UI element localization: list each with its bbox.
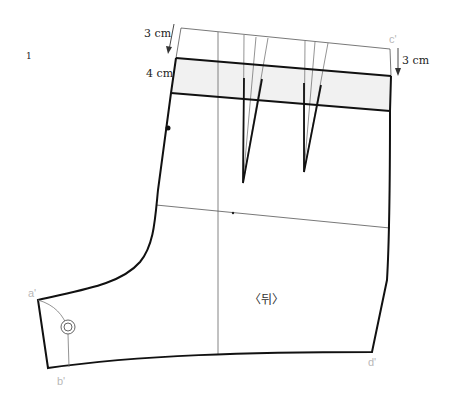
dart1-guide-b [243, 37, 256, 183]
figure-title: 〈뒤〉 [249, 290, 284, 307]
dart2-guide-b [304, 42, 315, 172]
b-guide-line [68, 334, 69, 367]
hip-line [156, 205, 390, 228]
measure-label-top-right: 3 cm [402, 54, 429, 67]
point-label-d: d' [368, 356, 376, 368]
side-notch-dot [166, 126, 171, 131]
hip-mark [232, 212, 234, 214]
arrow-3cm-right-head [395, 68, 401, 76]
upper-left-guide [176, 28, 181, 58]
notch-circle-outer [61, 320, 75, 334]
measure-label-top-left: 3 cm [144, 27, 171, 40]
arrow-3cm-left-head [166, 46, 172, 54]
point-label-c: c' [389, 33, 397, 45]
point-label-a: a' [28, 287, 36, 299]
point-label-b: b' [57, 375, 65, 387]
back-pants-pattern [0, 0, 452, 405]
measure-label-waistband: 4 cm [146, 67, 173, 80]
upper-guide-line [181, 28, 390, 49]
page-mark: 1 [26, 51, 32, 61]
upper-right-guide [390, 49, 391, 76]
